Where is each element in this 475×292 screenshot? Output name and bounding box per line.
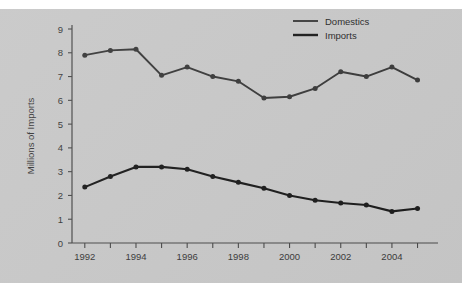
- data-point-marker: [338, 201, 343, 206]
- x-axis: 1992199419961998200020022004: [72, 243, 438, 262]
- data-point-marker: [108, 174, 113, 179]
- y-axis-tick-label: 1: [58, 214, 63, 225]
- y-axis-tick-label: 8: [58, 47, 63, 58]
- data-point-marker: [133, 47, 138, 52]
- chart-legend: DomesticsImports: [293, 16, 370, 41]
- x-axis-tick-label: 1998: [228, 251, 249, 262]
- y-axis-label: Millions of Imports: [25, 97, 36, 174]
- x-axis-tick-label: 2000: [279, 251, 300, 262]
- x-axis-tick-label: 2004: [381, 251, 402, 262]
- y-axis: 0123456789: [58, 24, 72, 249]
- data-point-marker: [389, 209, 394, 214]
- data-point-marker: [287, 193, 292, 198]
- data-point-marker: [210, 74, 215, 79]
- data-point-marker: [287, 94, 292, 99]
- chart-figure: Millions of Imports 0123456789 199219941…: [0, 9, 462, 283]
- line-chart-canvas: Millions of Imports 0123456789 199219941…: [0, 9, 462, 283]
- data-point-marker: [133, 164, 138, 169]
- data-point-marker: [82, 185, 87, 190]
- data-point-marker: [185, 167, 190, 172]
- data-point-marker: [159, 73, 164, 78]
- data-point-marker: [210, 174, 215, 179]
- data-point-marker: [415, 78, 420, 83]
- data-point-marker: [236, 180, 241, 185]
- series-line: [85, 49, 418, 98]
- data-point-marker: [236, 79, 241, 84]
- data-point-marker: [415, 206, 420, 211]
- data-point-marker: [338, 69, 343, 74]
- y-axis-tick-label: 3: [58, 166, 63, 177]
- x-axis-tick-label: 1992: [74, 251, 95, 262]
- data-point-marker: [261, 95, 266, 100]
- x-axis-tick-label: 1996: [177, 251, 198, 262]
- data-point-marker: [364, 74, 369, 79]
- legend-label-imports: Imports: [325, 30, 357, 41]
- series-domestics: [82, 47, 420, 101]
- legend-label-domestics: Domestics: [325, 16, 370, 27]
- y-axis-tick-label: 9: [58, 24, 63, 35]
- x-axis-tick-label: 1994: [125, 251, 146, 262]
- x-axis-tick-label: 2002: [330, 251, 351, 262]
- data-point-marker: [389, 65, 394, 70]
- data-point-marker: [82, 53, 87, 58]
- data-point-marker: [159, 164, 164, 169]
- data-series-group: [82, 47, 420, 214]
- data-point-marker: [313, 86, 318, 91]
- data-point-marker: [261, 186, 266, 191]
- y-axis-title: Millions of Imports: [25, 97, 36, 174]
- series-imports: [82, 164, 420, 213]
- data-point-marker: [313, 198, 318, 203]
- data-point-marker: [364, 202, 369, 207]
- y-axis-tick-label: 0: [58, 238, 63, 249]
- y-axis-tick-label: 2: [58, 190, 63, 201]
- data-point-marker: [108, 48, 113, 53]
- y-axis-tick-label: 6: [58, 95, 63, 106]
- data-point-marker: [185, 65, 190, 70]
- y-axis-tick-label: 7: [58, 71, 63, 82]
- y-axis-tick-label: 5: [58, 119, 63, 130]
- y-axis-tick-label: 4: [58, 142, 63, 153]
